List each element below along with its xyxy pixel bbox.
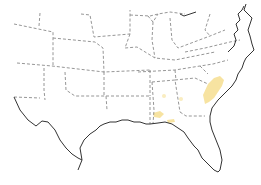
state-borders bbox=[14, 10, 240, 124]
dry-areas bbox=[153, 76, 224, 123]
drought-map bbox=[0, 0, 261, 185]
dry-area-al-south bbox=[153, 111, 164, 118]
chesapeake bbox=[228, 6, 244, 52]
dry-area-al-spot bbox=[162, 94, 166, 98]
dry-area-sc-ga bbox=[203, 76, 224, 104]
dry-area-ga-spot bbox=[179, 97, 183, 101]
